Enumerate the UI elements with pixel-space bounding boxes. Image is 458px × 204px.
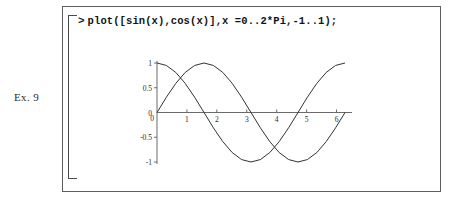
y-tick-label: -0.5 bbox=[140, 133, 152, 142]
x-tick-label: 3 bbox=[245, 115, 249, 124]
y-tick-label: -1 bbox=[146, 158, 152, 167]
execution-group-bracket[interactable] bbox=[68, 15, 77, 179]
x-tick-label: 5 bbox=[305, 115, 309, 124]
command-line[interactable]: > plot([sin(x),cos(x)],x =0..2*Pi,-1..1)… bbox=[78, 15, 337, 27]
exercise-label: Ex. 9 bbox=[14, 91, 39, 103]
x-tick-label: 2 bbox=[215, 115, 219, 124]
screenshot-root: Ex. 9 > plot([sin(x),cos(x)],x =0..2*Pi,… bbox=[0, 0, 458, 204]
y-tick-label: 1 bbox=[148, 59, 152, 68]
origin-label: 0 bbox=[150, 114, 154, 123]
x-tick-label: 6 bbox=[335, 115, 339, 124]
x-tick-label: 1 bbox=[185, 115, 189, 124]
plot-output: 123456-1-0.500.510 bbox=[130, 50, 360, 175]
x-tick-label: 4 bbox=[275, 115, 279, 124]
plot-svg: 123456-1-0.500.510 bbox=[130, 50, 360, 175]
command-input[interactable]: plot([sin(x),cos(x)],x =0..2*Pi,-1..1); bbox=[88, 15, 338, 27]
y-tick-label: 0.5 bbox=[143, 84, 153, 93]
maple-prompt-icon: > bbox=[78, 15, 85, 27]
